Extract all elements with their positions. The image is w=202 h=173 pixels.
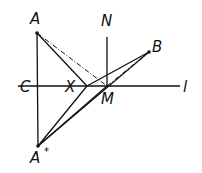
segment-Astar-X <box>38 86 87 146</box>
segment-Astar-B <box>38 52 149 146</box>
segment-X-B <box>87 52 149 86</box>
label-B: B <box>152 38 162 56</box>
label-M: M <box>101 90 114 108</box>
point-A <box>35 31 39 35</box>
segment-A-Astar <box>37 33 38 146</box>
label-l: l <box>183 78 188 96</box>
label-N: N <box>101 12 112 30</box>
label-Astar: A <box>29 149 40 167</box>
label-C: C <box>20 78 31 96</box>
reflection-diagram: A N B C X M l A * <box>0 0 202 173</box>
label-X: X <box>64 78 76 96</box>
label-star: * <box>44 146 49 157</box>
label-A: A <box>29 10 40 28</box>
segment-A-X <box>37 33 87 86</box>
point-B <box>147 50 151 54</box>
point-Astar <box>36 144 40 148</box>
